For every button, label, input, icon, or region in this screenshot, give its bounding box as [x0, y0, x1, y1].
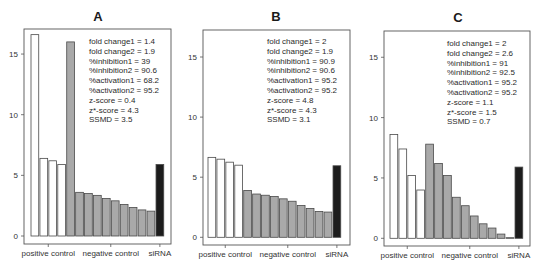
- bar-negative-control: [129, 207, 137, 236]
- stat-annotation: %activation1 = 68.2: [89, 76, 160, 85]
- y-tick-label: 15: [188, 53, 197, 62]
- y-tick-label: 0: [14, 232, 19, 241]
- bar-negative-control: [67, 42, 75, 236]
- x-category-label: siRNA: [508, 251, 531, 260]
- panel-c: C051015positive controlnegative controls…: [369, 10, 531, 260]
- stat-annotation: z*-score = 4.3: [89, 106, 139, 115]
- y-tick-label: 5: [193, 173, 198, 182]
- y-tick-label: 10: [369, 114, 378, 123]
- bar-sirna: [333, 166, 341, 238]
- stat-annotation: %inhibition1 = 90.9: [267, 57, 335, 66]
- bar-negative-control: [324, 212, 332, 237]
- x-category-label: positive control: [199, 250, 253, 259]
- x-category-label: negative control: [442, 251, 499, 260]
- stat-annotation: %inhibition1 = 39: [89, 57, 151, 66]
- bar-positive-control: [408, 176, 416, 239]
- bar-negative-control: [244, 190, 252, 237]
- stat-annotation: fold change1 = 2: [267, 37, 327, 46]
- bar-negative-control: [426, 144, 434, 238]
- bar-sirna: [515, 167, 523, 238]
- x-category-label: positive control: [381, 251, 435, 260]
- bar-sirna: [156, 164, 164, 236]
- x-category-label: negative control: [260, 250, 317, 259]
- x-category-label: siRNA: [326, 250, 349, 259]
- stat-annotation: fold change2 = 2.6: [447, 49, 514, 58]
- stat-annotation: SSMD = 3.5: [89, 115, 133, 124]
- bar-positive-control: [31, 35, 39, 236]
- bar-positive-control: [40, 158, 48, 236]
- y-tick-label: 10: [188, 113, 197, 122]
- bar-positive-control: [49, 161, 57, 236]
- panel-b: B051015positive controlnegative controls…: [188, 9, 350, 259]
- bar-negative-control: [470, 216, 478, 238]
- bar-negative-control: [271, 196, 279, 237]
- bar-positive-control: [217, 159, 225, 237]
- bar-negative-control: [315, 211, 323, 237]
- bar-negative-control: [138, 210, 146, 236]
- x-category-label: siRNA: [149, 249, 172, 258]
- panel-title: B: [271, 9, 280, 24]
- stat-annotation: fold change2 = 1.9: [89, 47, 156, 56]
- bar-negative-control: [497, 234, 505, 238]
- bar-negative-control: [76, 192, 84, 236]
- bar-positive-control: [58, 164, 66, 236]
- y-tick-label: 15: [369, 53, 378, 62]
- bar-negative-control: [288, 201, 296, 237]
- bar-negative-control: [306, 208, 314, 237]
- bar-positive-control: [399, 149, 407, 238]
- stat-annotation: fold change2 = 1.9: [267, 47, 334, 56]
- bar-negative-control: [102, 198, 110, 236]
- bar-negative-control: [461, 206, 469, 239]
- bar-negative-control: [253, 194, 261, 237]
- bar-negative-control: [147, 211, 155, 236]
- stat-annotation: z*-score = 1.5: [447, 108, 497, 117]
- bar-negative-control: [120, 204, 128, 236]
- bar-negative-control: [479, 224, 487, 238]
- y-tick-label: 15: [9, 50, 18, 59]
- stat-annotation: SSMD = 0.7: [447, 117, 491, 126]
- stat-annotation: fold change1 = 1.4: [89, 37, 156, 46]
- stat-annotation: %activation2 = 95.2: [89, 86, 160, 95]
- stat-annotation: z*-score = 4.3: [267, 106, 317, 115]
- y-tick-label: 5: [374, 174, 379, 183]
- stat-annotation: %activation1 = 95.2: [447, 78, 518, 87]
- bar-positive-control: [226, 162, 234, 237]
- stat-annotation: %activation2 = 95.2: [447, 88, 518, 97]
- bar-positive-control: [208, 157, 216, 237]
- bar-negative-control: [297, 205, 305, 237]
- bar-negative-control: [111, 201, 119, 236]
- bar-negative-control: [506, 238, 514, 239]
- panel-a: A051015positive controlnegative controls…: [9, 9, 172, 258]
- bar-negative-control: [279, 199, 287, 237]
- stat-annotation: %activation2 = 95.2: [267, 86, 338, 95]
- bar-positive-control: [390, 134, 398, 238]
- stat-annotation: %inhibition2 = 92.5: [447, 68, 515, 77]
- stat-annotation: %inhibition1 = 91: [447, 59, 509, 68]
- y-tick-label: 5: [14, 171, 19, 180]
- y-tick-label: 0: [374, 234, 379, 243]
- figure: A051015positive controlnegative controls…: [0, 0, 541, 270]
- stat-annotation: z-score = 0.4: [89, 96, 136, 105]
- panel-title: C: [453, 10, 463, 25]
- x-category-label: negative control: [83, 249, 140, 258]
- y-tick-label: 0: [193, 233, 198, 242]
- stat-annotation: SSMD = 3.1: [267, 115, 311, 124]
- panel-title: A: [93, 9, 103, 24]
- stat-annotation: z-score = 4.8: [267, 96, 314, 105]
- stat-annotation: %activation1 = 95.2: [267, 76, 338, 85]
- bar-negative-control: [435, 163, 443, 238]
- stat-annotation: %inhibition2 = 90.6: [267, 66, 335, 75]
- bar-negative-control: [85, 194, 93, 236]
- x-category-label: positive control: [22, 249, 76, 258]
- stat-annotation: %inhibition2 = 90.6: [89, 66, 157, 75]
- y-tick-label: 10: [9, 111, 18, 120]
- bar-negative-control: [94, 195, 102, 236]
- bar-positive-control: [235, 165, 243, 237]
- bar-negative-control: [444, 176, 452, 239]
- bar-negative-control: [262, 195, 270, 237]
- stat-annotation: z-score = 1.1: [447, 98, 494, 107]
- bar-negative-control: [488, 228, 496, 238]
- bar-negative-control: [453, 197, 461, 238]
- stat-annotation: fold change1 = 2: [447, 39, 507, 48]
- bar-positive-control: [417, 190, 425, 238]
